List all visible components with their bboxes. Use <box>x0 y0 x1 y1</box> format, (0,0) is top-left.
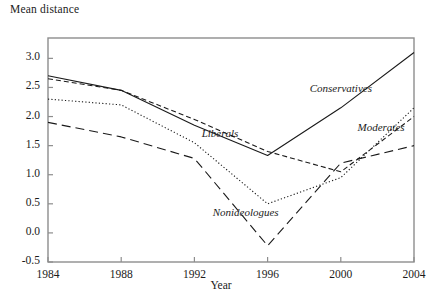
y-tick-label: 0.5 <box>6 196 40 208</box>
series-label-liberals: Liberals <box>202 127 239 139</box>
y-tick-label: 1.0 <box>6 167 40 179</box>
chart-plot-area <box>0 0 442 302</box>
y-tick-label: 0.0 <box>6 225 40 237</box>
y-tick-label: 3.0 <box>6 50 40 62</box>
y-tick-label: 2.0 <box>6 109 40 121</box>
y-tick-label: 1.5 <box>6 138 40 150</box>
series-line-moderates <box>48 99 414 204</box>
plot-frame <box>48 38 414 262</box>
y-tick-label: 2.5 <box>6 79 40 91</box>
series-line-conservatives <box>48 53 414 156</box>
series-label-conservatives: Conservatives <box>310 82 372 94</box>
chart-figure: Mean distance -0.50.00.51.01.52.02.53.0 … <box>0 0 442 302</box>
series-label-moderates: Moderates <box>358 121 405 133</box>
y-tick-label: -0.5 <box>6 254 40 266</box>
x-axis-label: Year <box>0 279 442 291</box>
series-label-nonideologues: Nonideologues <box>213 206 279 218</box>
